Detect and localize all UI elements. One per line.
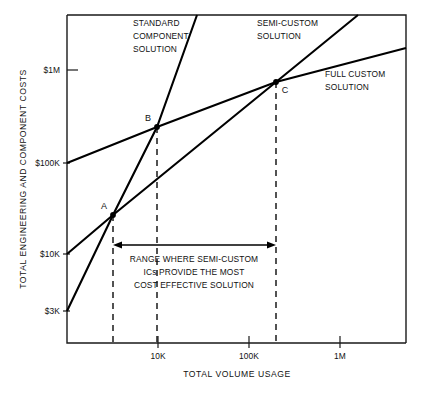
y-tick-label-3k: $3K <box>45 306 61 316</box>
x-axis-title: TOTAL VOLUME USAGE <box>183 369 291 379</box>
plot-frame <box>67 15 406 343</box>
series-label-standard: STANDARD COMPONENT SOLUTION <box>133 18 189 54</box>
series-label-standard-line3: SOLUTION <box>133 44 177 54</box>
point-label-c: C <box>282 85 289 95</box>
axis-lines <box>67 15 406 343</box>
x-tick-label-100k: 100K <box>239 351 259 361</box>
plot-border-top-right <box>67 15 406 343</box>
series-label-semi-custom-line1: SEMI-CUSTOM <box>257 18 318 28</box>
series-label-full-custom-line1: FULL CUSTOM <box>325 69 385 79</box>
series-label-full-custom: FULL CUSTOM SOLUTION <box>325 69 385 92</box>
y-axis-ticks <box>63 70 78 311</box>
series-label-full-custom-line2: SOLUTION <box>325 82 369 92</box>
range-arrow-head-right <box>267 242 276 249</box>
range-arrow <box>113 242 276 249</box>
series-label-standard-line2: COMPONENT <box>133 31 189 41</box>
range-annotation: RANGE WHERE SEMI-CUSTOM ICs PROVIDE THE … <box>130 254 258 290</box>
series-label-semi-custom: SEMI-CUSTOM SOLUTION <box>257 18 318 41</box>
y-tick-label-100k: $100K <box>35 158 60 168</box>
x-tick-label-1m: 1M <box>334 351 346 361</box>
point-label-b: B <box>145 113 151 123</box>
marker-point-a <box>110 212 116 218</box>
series-label-standard-line1: STANDARD <box>133 18 180 28</box>
marker-point-c <box>273 79 279 85</box>
drop-lines <box>113 82 276 343</box>
y-tick-label-1m: $1M <box>43 65 60 75</box>
x-tick-label-10k: 10K <box>150 351 166 361</box>
y-tick-label-10k: $10K <box>40 249 60 259</box>
point-label-a: A <box>101 201 107 211</box>
y-axis-title: TOTAL ENGINEERING AND COMPONENT COSTS <box>18 69 28 289</box>
line-full-custom-solution <box>67 48 406 163</box>
marker-point-b <box>154 124 160 130</box>
line-semi-custom-solution <box>67 15 358 254</box>
range-annotation-line3: COST EFFECTIVE SOLUTION <box>134 280 254 290</box>
x-axis-ticks <box>158 336 340 348</box>
range-annotation-line2: ICs PROVIDE THE MOST <box>143 267 244 277</box>
range-arrow-head-left <box>113 242 122 249</box>
series-label-semi-custom-line2: SOLUTION <box>257 31 301 41</box>
figure-container: $1M $100K $10K $3K 10K 100K 1M TOTAL VOL… <box>0 0 422 399</box>
range-annotation-line1: RANGE WHERE SEMI-CUSTOM <box>130 254 258 264</box>
cost-crossover-chart: $1M $100K $10K $3K 10K 100K 1M TOTAL VOL… <box>0 0 422 399</box>
